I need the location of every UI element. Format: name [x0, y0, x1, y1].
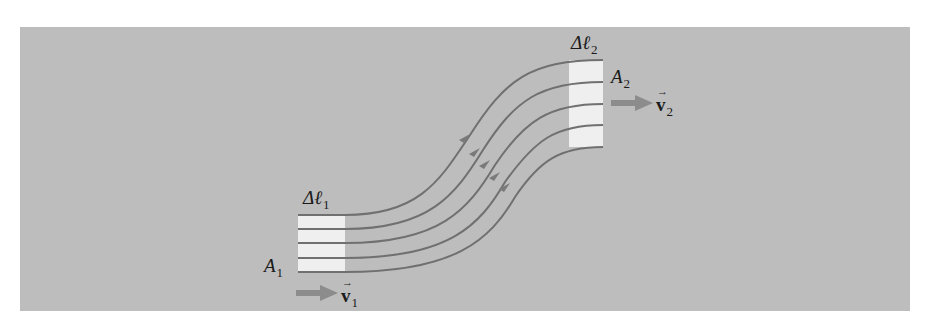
fluid-flow-diagram [0, 0, 929, 326]
velocity-arrow-1 [296, 285, 338, 301]
arrowhead-icon [479, 160, 490, 169]
label-delta-l1: Δℓ1 [303, 188, 330, 207]
label-area-2: A2 [611, 67, 630, 86]
streamline-arrowheads [459, 134, 510, 192]
label-delta-l2: Δℓ2 [571, 33, 598, 52]
velocity-arrow-2 [611, 95, 653, 111]
streamline [298, 60, 603, 215]
label-velocity-1: →v1 [341, 286, 358, 305]
label-velocity-2: →v2 [656, 95, 673, 114]
label-area-1: A1 [264, 256, 283, 275]
